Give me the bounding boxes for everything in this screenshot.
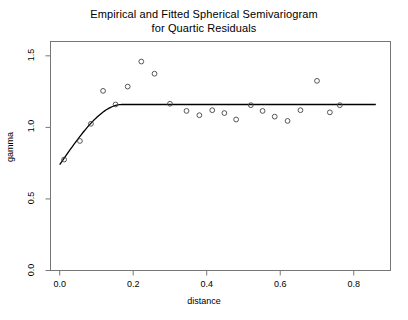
plot-canvas	[0, 0, 408, 320]
y-tick-label: 0.0	[26, 255, 36, 285]
data-point	[337, 103, 342, 108]
y-tick-label: 0.5	[26, 183, 36, 213]
data-point	[327, 110, 332, 115]
data-point	[210, 108, 215, 113]
data-point	[260, 109, 265, 114]
x-tick-label: 0.0	[40, 279, 80, 289]
data-point	[168, 101, 173, 106]
data-point	[298, 108, 303, 113]
y-tick-label: 1.0	[26, 111, 36, 141]
data-point	[285, 119, 290, 124]
x-axis-label: distance	[0, 296, 408, 306]
x-tick-label: 0.8	[334, 279, 374, 289]
data-point	[152, 71, 157, 76]
data-point	[222, 111, 227, 116]
data-point	[248, 103, 253, 108]
data-point	[139, 59, 144, 64]
y-axis-ticks	[46, 56, 51, 271]
plot-frame	[51, 42, 391, 271]
x-axis-ticks	[60, 271, 354, 276]
data-point	[315, 78, 320, 83]
data-point	[184, 109, 189, 114]
y-tick-label: 1.5	[26, 40, 36, 70]
x-tick-label: 0.4	[187, 279, 227, 289]
data-point	[197, 113, 202, 118]
semivariogram-figure: Empirical and Fitted Spherical Semivario…	[0, 0, 408, 320]
data-point	[101, 88, 106, 93]
data-point	[78, 139, 83, 144]
data-point	[272, 114, 277, 119]
empirical-points	[62, 59, 342, 162]
y-axis-label: gamma	[5, 107, 15, 187]
data-point	[125, 84, 130, 89]
x-tick-label: 0.2	[113, 279, 153, 289]
x-tick-label: 0.6	[260, 279, 300, 289]
fitted-spherical-curve	[60, 104, 376, 164]
data-point	[234, 117, 239, 122]
